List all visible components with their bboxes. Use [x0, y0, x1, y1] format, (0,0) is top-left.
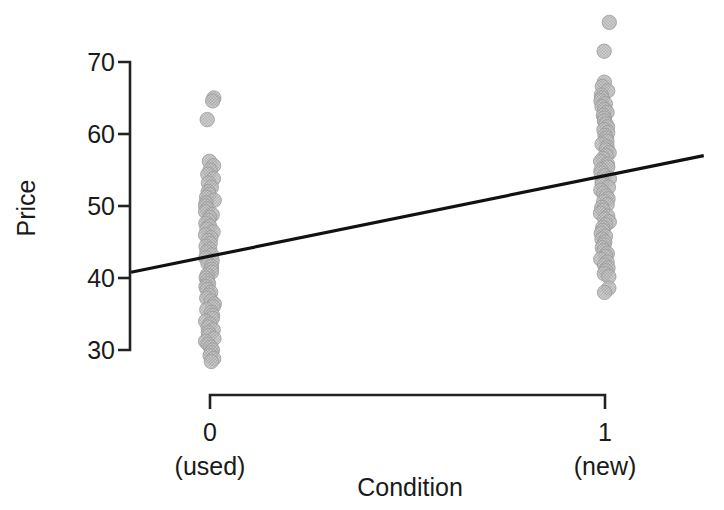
y-axis-tick-label: 70: [55, 48, 115, 77]
y-axis: [118, 62, 130, 350]
x-axis-spine: [210, 395, 605, 409]
y-axis-tick-label: 50: [55, 192, 115, 221]
data-point: [602, 15, 616, 29]
data-points-used: [198, 91, 221, 369]
x-axis-title: Condition: [357, 473, 463, 502]
data-point: [205, 94, 219, 108]
data-point: [597, 44, 611, 58]
y-axis-tick-label: 60: [55, 120, 115, 149]
y-axis-tick-label: 30: [55, 336, 115, 365]
x-axis-tick-sublabel: (used): [175, 452, 246, 481]
y-axis-title: Price: [12, 180, 41, 237]
x-axis-tick-label: 1: [598, 418, 612, 447]
x-axis: [210, 395, 605, 409]
data-point: [597, 285, 611, 299]
data-points-new: [593, 15, 616, 299]
x-axis-tick-label: 0: [203, 418, 217, 447]
scatter-plot-figure: 3040506070 0(used)1(new) Price Condition: [0, 0, 724, 510]
data-point: [200, 112, 214, 126]
y-axis-tick-label: 40: [55, 264, 115, 293]
x-axis-tick-sublabel: (new): [574, 452, 637, 481]
y-axis-ticks: [118, 134, 130, 278]
plot-canvas: [0, 0, 724, 510]
data-point: [204, 354, 218, 368]
